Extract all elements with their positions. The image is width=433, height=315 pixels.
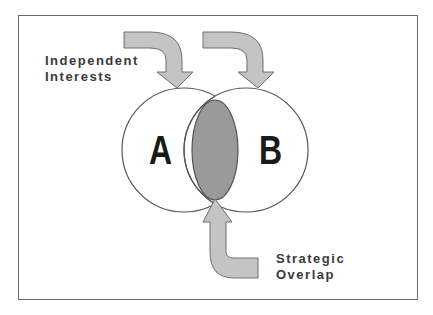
venn-diagram — [0, 0, 433, 315]
independent-line1: Independent — [45, 53, 139, 69]
overlap-region — [192, 100, 238, 200]
set-label-a: A — [149, 130, 172, 170]
arrow-icon-independent-b — [203, 32, 274, 88]
overlap-line2: Overlap — [276, 267, 345, 283]
overlap-line1: Strategic — [276, 251, 345, 267]
independent-line2: Interests — [45, 69, 139, 85]
independent-interests-label: Independent Interests — [45, 53, 139, 85]
strategic-overlap-label: Strategic Overlap — [276, 251, 345, 283]
set-label-b: B — [259, 130, 282, 170]
